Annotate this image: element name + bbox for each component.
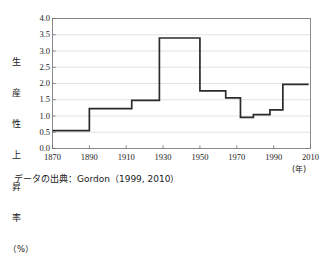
x-axis-tick-label: 1890 — [72, 153, 106, 162]
x-axis-unit-label: (年) — [292, 163, 306, 174]
y-axis-title-unit: （%） — [8, 244, 24, 254]
y-axis-title-char: 率 — [8, 213, 24, 223]
x-axis-tick-label: 1870 — [36, 153, 70, 162]
x-axis-tick-label: 1970 — [220, 153, 254, 162]
x-axis-tick-label: 1910 — [109, 153, 143, 162]
x-axis-tick-label: 1930 — [146, 153, 180, 162]
source-caption: データの出典：Gordon（1999, 2010） — [14, 174, 179, 185]
x-axis-tick-label: 2010 — [294, 153, 327, 162]
x-axis-tick-label: 1990 — [257, 153, 291, 162]
x-axis-tick-label: 1950 — [183, 153, 217, 162]
